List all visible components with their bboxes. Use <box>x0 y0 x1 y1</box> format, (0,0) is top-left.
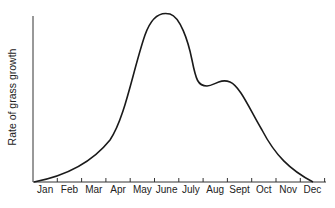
month-label: Sept <box>229 184 250 195</box>
month-label: Mar <box>85 184 102 195</box>
month-label: Aug <box>206 184 224 195</box>
growth-curve <box>34 13 313 182</box>
y-axis-label: Rate of grass growth <box>4 22 20 172</box>
month-label: Feb <box>61 184 78 195</box>
month-label: Apr <box>110 184 126 195</box>
month-label: Nov <box>279 184 297 195</box>
month-label: Jan <box>37 184 53 195</box>
grass-growth-chart <box>0 0 335 208</box>
month-label: June <box>156 184 178 195</box>
month-label: July <box>182 184 200 195</box>
month-label: May <box>133 184 152 195</box>
x-axis-ticks <box>57 178 324 182</box>
y-axis-label-text: Rate of grass growth <box>6 49 18 146</box>
month-label: Oct <box>256 184 272 195</box>
month-label: Dec <box>304 184 322 195</box>
